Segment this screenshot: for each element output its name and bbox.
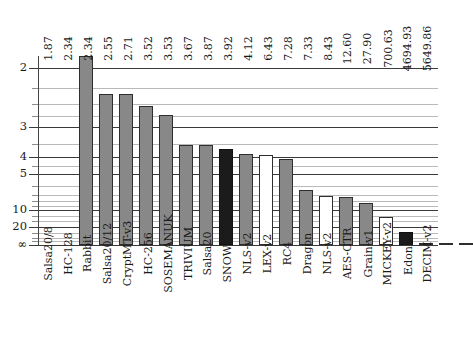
y-axis-minor-tick	[32, 88, 38, 89]
y-axis-tick	[29, 210, 38, 211]
y-axis-tick	[29, 157, 38, 158]
gridline-minor	[38, 216, 438, 217]
gridline-minor	[38, 116, 438, 117]
x-axis-category-label-text: Dragon	[303, 233, 314, 274]
gridline-minor	[38, 233, 438, 234]
x-axis-category-label-text: Salsa20	[203, 232, 214, 276]
bar-value-label: 3.52	[138, 0, 158, 54]
bar-value-label-text: 3.52	[143, 36, 154, 61]
gridline-minor	[38, 241, 438, 242]
bar-value-label: 12.60	[338, 0, 358, 54]
x-axis-category-label-text: NLS-v2	[243, 233, 254, 275]
bar-value-label-text: 5649.86	[423, 26, 434, 72]
bar-value-label: 4694.93	[398, 0, 418, 54]
x-axis-category-label-text: SNOW-2.0	[223, 225, 234, 283]
y-axis-minor-tick	[32, 186, 38, 187]
x-axis-category-label-text: CryptMT-v3	[123, 221, 134, 286]
bar-value-label-text: 2.34	[83, 36, 94, 61]
y-axis-tick-label: 3	[0, 121, 27, 133]
bar-value-label: 4.12	[238, 0, 258, 54]
gridline-minor	[38, 206, 438, 207]
bar[interactable]	[79, 56, 93, 245]
y-axis-minor-tick	[32, 201, 38, 202]
gridline-minor	[38, 238, 438, 239]
y-axis-minor-tick	[32, 241, 38, 242]
bar-value-label-text: 7.33	[303, 36, 314, 61]
bar-value-label: 700.63	[378, 0, 398, 54]
gridline-minor	[38, 221, 438, 222]
x-axis-category-label: HC-128	[58, 248, 78, 346]
y-axis-tick	[29, 227, 38, 228]
x-axis-category-label: SOSEMANUK	[158, 248, 178, 346]
y-axis-tick-label: 10	[0, 204, 27, 216]
x-axis-category-label: SNOW-2.0	[218, 248, 238, 346]
bar-value-label-text: 4694.93	[403, 26, 414, 72]
y-axis-minor-tick	[32, 221, 38, 222]
bar-value-label-text: 2.34	[63, 36, 74, 61]
gridline-minor	[38, 104, 438, 105]
y-axis-minor-tick	[32, 166, 38, 167]
x-axis-category-label: Salsa20	[198, 248, 218, 346]
bar-value-label-text: 7.28	[283, 36, 294, 61]
y-axis-tick	[29, 245, 38, 246]
bar[interactable]	[139, 106, 153, 245]
bar-value-label: 6.43	[258, 0, 278, 54]
y-axis-minor-tick	[32, 233, 38, 234]
x-axis-category-label: HC-256	[138, 248, 158, 346]
bar-value-label: 3.92	[218, 0, 238, 54]
y-axis-tick	[29, 68, 38, 69]
x-axis-category-label-text: TRIVIUM	[183, 227, 194, 280]
bar-value-label: 27.90	[358, 0, 378, 54]
x-axis-category-label: MICKEY-v2	[378, 248, 398, 346]
bar-value-label-text: 6.43	[263, 36, 274, 61]
x-axis-category-label: Grain-v1	[358, 248, 378, 346]
bar-value-label-text: 1.87	[43, 36, 54, 61]
x-axis-category-label-text: HC-256	[143, 232, 154, 275]
x-axis-category-label-text: Salsa20/12	[103, 223, 114, 285]
x-axis-category-label: Salsa20/12	[98, 248, 118, 346]
gridline-minor	[38, 166, 438, 167]
y-axis-minor-tick	[32, 238, 38, 239]
x-axis-category-label-text: Grain-v1	[363, 229, 374, 277]
gridline-minor	[38, 88, 438, 89]
y-axis-minor-tick	[32, 144, 38, 145]
x-axis-category-label: AES-CTR	[338, 248, 358, 346]
y-axis-line	[38, 56, 39, 246]
bar[interactable]	[259, 155, 273, 245]
bar-value-label: 2.55	[98, 0, 118, 54]
y-axis-minor-tick	[32, 116, 38, 117]
x-axis-category-label-text: AES-CTR	[343, 228, 354, 280]
gridline-major	[38, 157, 438, 158]
x-axis-category-label: Rabbit	[78, 248, 98, 346]
x-axis-category-label-text: HC-128	[63, 232, 74, 275]
x-axis-category-label-text: LEX-v2	[263, 234, 274, 274]
x-axis-category-label: CryptMT-v3	[118, 248, 138, 346]
bar-value-label: 3.53	[158, 0, 178, 54]
y-axis-minor-tick	[32, 216, 38, 217]
bar[interactable]	[199, 145, 213, 245]
bar[interactable]	[279, 159, 293, 245]
y-axis-tick-label: 4	[0, 151, 27, 163]
y-axis-minor-tick	[32, 195, 38, 196]
bar-value-label-text: 2.71	[123, 36, 134, 61]
bar-value-label: 1.87	[38, 0, 58, 54]
bar-value-label: 8.43	[318, 0, 338, 54]
gridline-minor	[38, 186, 438, 187]
bar[interactable]	[239, 154, 253, 245]
bar-value-label: 3.87	[198, 0, 218, 54]
plot-area	[38, 56, 438, 245]
x-axis-category-label-text: SOSEMANUK	[163, 214, 174, 292]
x-axis-category-label: RC4	[278, 248, 298, 346]
y-axis-tick-label: 2	[0, 62, 27, 74]
y-axis-tick-label: 5	[0, 168, 27, 180]
gridline-minor	[38, 144, 438, 145]
bar-value-label-text: 2.55	[103, 36, 114, 61]
x-axis-category-label-text: Salsa20/8	[43, 226, 54, 281]
bar-value-label: 7.33	[298, 0, 318, 54]
gridline-major	[38, 245, 438, 246]
x-axis-category-label: Dragon	[298, 248, 318, 346]
bar[interactable]	[459, 243, 473, 245]
x-axis-category-label: LEX-v2	[258, 248, 278, 346]
bar[interactable]	[439, 243, 453, 245]
x-axis-category-label-text: MICKEY-v2	[383, 222, 394, 285]
